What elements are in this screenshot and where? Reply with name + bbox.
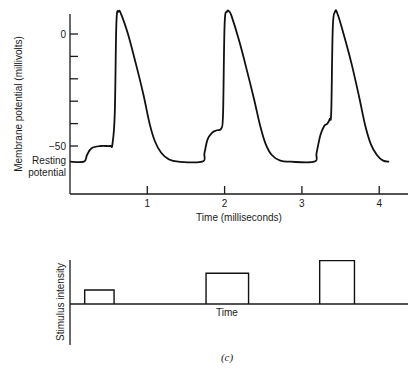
resting-potential-label-line2: potential — [28, 167, 66, 178]
membrane-potential-chart: 0−50 1234 Membrane potential (millivolts… — [13, 10, 408, 223]
y-tick-label: 0 — [60, 29, 66, 40]
resting-potential-label-line1: Resting — [32, 155, 66, 166]
stimulus-x-axis-label: Time — [216, 307, 238, 318]
membrane-potential-trace — [70, 10, 389, 162]
figure-caption: (c) — [221, 351, 234, 364]
x-tick-label: 2 — [222, 198, 228, 209]
stimulus-bar-2 — [206, 273, 249, 304]
y-tick-label: −50 — [49, 141, 66, 152]
stimulus-bar-1 — [85, 290, 114, 304]
stimulus-bar-3 — [320, 261, 355, 304]
x-tick-label: 3 — [299, 198, 305, 209]
x-axis-label: Time (milliseconds) — [196, 212, 282, 223]
stimulus-y-axis-label: Stimulus intensity — [55, 263, 66, 341]
stimulus-chart: Stimulus intensity Time — [55, 260, 408, 345]
x-tick-label: 4 — [376, 198, 382, 209]
x-tick-label: 1 — [145, 198, 151, 209]
y-axis-label: Membrane potential (millivolts) — [13, 36, 24, 172]
figure: 0−50 1234 Membrane potential (millivolts… — [0, 0, 419, 378]
